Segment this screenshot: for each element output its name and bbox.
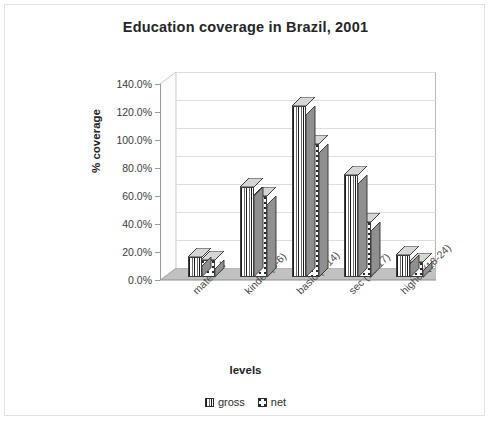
chart-legend: gross net (0, 396, 491, 408)
y-axis-tick-label: 40.0% (122, 218, 152, 230)
legend-swatch-gross-icon (205, 398, 214, 407)
bar-gross-kinder-3-6- (240, 187, 254, 277)
legend-item-gross: gross (205, 396, 245, 408)
bar-side-face (371, 222, 380, 277)
bar-top-face (188, 248, 202, 257)
bar-gross-sec-15-17- (344, 175, 358, 277)
y-axis-tick-label: 120.0% (116, 106, 152, 118)
bar-top-face (292, 97, 306, 106)
legend-item-net: net (258, 396, 286, 408)
bar-front-face (292, 106, 306, 277)
bar-front-face (344, 175, 358, 277)
bar-side-face (254, 187, 263, 277)
bar-side-face (306, 106, 315, 277)
plot-left-wall (160, 72, 176, 268)
bar-front-face (188, 257, 202, 277)
bar-side-face (202, 257, 211, 277)
legend-label-net: net (271, 396, 286, 408)
bar-top-face (240, 178, 254, 187)
y-axis-tick-label: 0.0% (128, 274, 152, 286)
y-axis-line (160, 84, 161, 280)
bar-side-face (267, 196, 276, 277)
y-axis-tick-label: 100.0% (116, 134, 152, 146)
legend-swatch-net-icon (258, 398, 267, 407)
bar-gross-higher-18-24- (396, 255, 410, 277)
chart-title: Education coverage in Brazil, 2001 (0, 19, 491, 35)
plot-area: 0.0%20.0%40.0%60.0%80.0%100.0%120.0%140.… (176, 72, 436, 268)
y-axis-tick-label: 140.0% (116, 78, 152, 90)
bar-front-face (240, 187, 254, 277)
bar-gross-basic-7-14- (292, 106, 306, 277)
bar-top-face (396, 246, 410, 255)
y-axis-tick-label: 60.0% (122, 190, 152, 202)
bar-side-face (319, 144, 328, 277)
bar-front-face (396, 255, 410, 277)
y-axis-tick-label: 20.0% (122, 246, 152, 258)
bar-series-group (176, 72, 436, 280)
bar-side-face (215, 260, 224, 277)
bar-side-face (410, 255, 419, 277)
legend-label-gross: gross (218, 396, 245, 408)
chart-image: Education coverage in Brazil, 2001 % cov… (0, 0, 491, 423)
x-axis-title: levels (0, 364, 491, 376)
y-axis-tick-label: 80.0% (122, 162, 152, 174)
bar-gross-maternal (188, 257, 202, 277)
bar-side-face (423, 262, 432, 277)
bar-side-face (358, 175, 367, 277)
bar-top-face (344, 166, 358, 175)
y-axis-title: % coverage (90, 109, 102, 173)
